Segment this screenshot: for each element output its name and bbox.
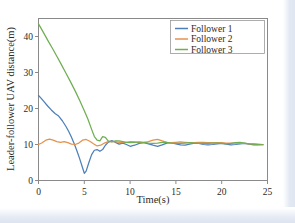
y-tick-label: 0 [28,176,33,186]
x-tick-label: 5 [82,187,87,197]
y-tick-label: 10 [24,140,34,150]
figure-container: 0510152025 010203040 Time(s) Leader-foll… [0,0,295,223]
y-tick-label: 40 [24,32,34,42]
legend-items: Follower 1Follower 2Follower 3 [175,24,233,55]
legend-label-3: Follower 3 [191,45,233,55]
x-axis-title: Time(s) [137,194,170,206]
series-line-1 [39,96,263,174]
y-axis-ticks: 010203040 [24,32,39,186]
chart-canvas: 0510152025 010203040 Time(s) Leader-foll… [0,0,295,223]
y-tick-label: 30 [24,68,34,78]
x-tick-label: 10 [125,187,135,197]
chart-legend: Follower 1Follower 2Follower 3 [171,21,265,55]
x-tick-label: 0 [36,187,41,197]
legend-label-1: Follower 1 [191,24,233,34]
x-tick-label: 20 [217,187,227,197]
x-tick-label: 15 [171,187,181,197]
y-tick-label: 20 [24,104,34,114]
x-tick-label: 25 [263,187,273,197]
y-axis-title: Leader-follower UAV distance(m) [5,26,17,171]
legend-label-2: Follower 2 [191,34,233,44]
